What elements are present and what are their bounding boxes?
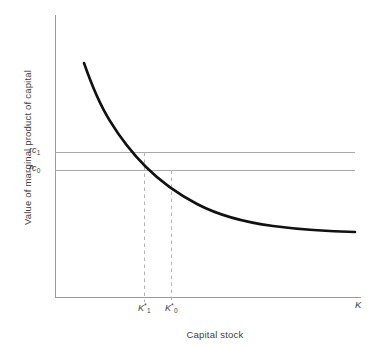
x-tick-label-k0-sub: 0 [174,307,178,314]
y-tick-label-rc1-base: rc [29,145,37,155]
chart-figure: Value of marginal product of capital Cap… [0,0,376,348]
x-axis-symbol-label: K [355,299,361,310]
y-tick-label-rc1: rc1 [29,145,40,155]
y-tick-label-rc0: rc0 [29,163,40,173]
y-tick-label-rc1-sub: 1 [37,149,41,156]
x-axis-title: Capital stock [155,329,275,340]
x-tick-label-k1-sub: 1 [147,307,151,314]
y-tick-label-rc0-sub: 0 [37,167,41,174]
x-tick-label-k0: K*0 [165,303,177,313]
chart-plot-area [0,0,376,348]
y-tick-label-rc0-base: rc [29,163,37,173]
x-tick-label-k1: K*1 [138,303,150,313]
vmpk-curve [84,63,355,232]
